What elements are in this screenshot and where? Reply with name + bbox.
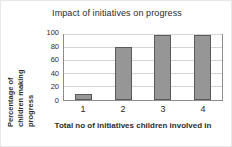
bar-series <box>64 35 222 100</box>
y-axis-title-line-2: children making <box>16 69 25 127</box>
bar <box>75 94 92 101</box>
y-axis-title: Percentage of children making progress <box>5 27 39 127</box>
bar <box>154 35 171 100</box>
bar-slot <box>143 35 183 100</box>
y-axis-title-line-1: Percentage of <box>6 77 15 127</box>
plot-area <box>63 34 223 101</box>
y-axis-title-line-3: progress <box>26 95 35 127</box>
bar-slot <box>64 35 104 100</box>
y-axis-tick-label: 40 <box>51 70 59 78</box>
y-axis-tick-label: 0 <box>55 97 59 105</box>
x-axis-tick-label: 1 <box>63 104 103 114</box>
x-axis-tick-label: 4 <box>183 104 223 114</box>
bar-slot <box>104 35 144 100</box>
bar-slot <box>183 35 223 100</box>
x-axis-tick-label: 3 <box>143 104 183 114</box>
x-axis-title: Total no of initiatives children involve… <box>37 121 229 130</box>
bar <box>194 35 211 100</box>
x-axis-tick-labels: 1234 <box>63 104 223 114</box>
y-axis-tick-labels: 020406080100 <box>37 33 61 101</box>
y-axis-tick-label: 80 <box>51 43 59 51</box>
y-axis-tick-label: 100 <box>46 29 59 37</box>
bar-chart-figure: Impact of initiatives on progress Percen… <box>0 0 232 147</box>
bar <box>115 47 132 100</box>
y-axis-tick-label: 20 <box>51 84 59 92</box>
y-axis-tick-label: 60 <box>51 56 59 64</box>
chart-title: Impact of initiatives on progress <box>1 8 232 18</box>
x-axis-tick-label: 2 <box>103 104 143 114</box>
